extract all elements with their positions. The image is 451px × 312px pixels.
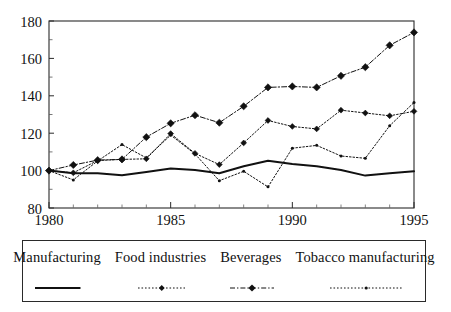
- series-beverages: [45, 29, 417, 174]
- data-point-marker: [70, 161, 77, 168]
- x-axis-ticks: [49, 202, 414, 208]
- dotted-dot-sample: [330, 281, 402, 295]
- data-point-marker: [169, 134, 172, 137]
- data-point-marker: [315, 144, 318, 147]
- chart-svg: 80100120140160180 1980198519901995: [0, 0, 451, 232]
- x-tick-label: 1990: [278, 212, 307, 228]
- y-tick-label: 120: [20, 126, 42, 142]
- y-tick-label: 160: [20, 51, 42, 67]
- series-manufacturing: [49, 161, 414, 176]
- legend-item-tobacco-manufacturing: Tobacco manufacturing: [295, 249, 434, 266]
- data-point-marker: [291, 147, 294, 150]
- y-tick-label: 100: [20, 163, 42, 179]
- data-point-marker: [313, 84, 320, 91]
- y-axis-tick-labels: 80100120140160180: [20, 14, 42, 217]
- data-point-marker: [340, 155, 343, 158]
- data-point-marker: [413, 101, 416, 104]
- data-point-marker: [218, 179, 221, 182]
- data-point-marker: [387, 113, 393, 119]
- data-point-marker: [191, 112, 198, 119]
- data-point-marker: [242, 170, 245, 173]
- legend-item-beverages: Beverages: [220, 249, 281, 266]
- x-tick-label: 1985: [156, 212, 185, 228]
- legend-label-row: Manufacturing Food industries Beverages …: [23, 249, 425, 266]
- legend-item-food-industries: Food industries: [115, 249, 206, 266]
- y-tick-label: 180: [20, 14, 42, 30]
- data-point-marker: [289, 83, 296, 90]
- legend-item-manufacturing: Manufacturing: [13, 249, 100, 266]
- x-tick-label: 1980: [35, 212, 64, 228]
- data-point-marker: [167, 120, 174, 127]
- data-point-marker: [364, 157, 367, 160]
- data-point-marker: [121, 143, 124, 146]
- x-tick-label: 1995: [400, 212, 429, 228]
- data-point-marker: [289, 124, 295, 130]
- data-point-marker: [267, 185, 270, 188]
- data-point-marker: [194, 152, 197, 155]
- line-chart-plot: 80100120140160180 1980198519901995: [0, 0, 451, 232]
- dotted-diamond-sample: [138, 281, 185, 295]
- dashdot-diamond-sample: [230, 281, 274, 295]
- y-tick-label: 140: [20, 88, 42, 104]
- data-series-group: [45, 29, 417, 189]
- solid-line-sample: [35, 281, 80, 295]
- data-point-marker: [410, 29, 417, 36]
- chart-legend: Manufacturing Food industries Beverages …: [22, 240, 426, 302]
- data-point-marker: [145, 156, 148, 159]
- data-point-marker: [411, 108, 417, 114]
- data-point-marker: [70, 170, 76, 176]
- data-point-marker: [216, 119, 223, 126]
- data-point-marker: [48, 169, 51, 172]
- data-point-marker: [362, 110, 368, 116]
- chart-figure: 80100120140160180 1980198519901995 Manuf…: [0, 0, 451, 312]
- legend-sample-row: [23, 281, 425, 295]
- data-point-marker: [96, 159, 99, 162]
- series-food-industries: [46, 107, 417, 175]
- data-point-marker: [72, 178, 75, 181]
- x-axis-tick-labels: 1980198519901995: [35, 212, 429, 228]
- data-point-marker: [337, 72, 344, 79]
- y-axis-ticks: [49, 21, 54, 208]
- data-point-marker: [388, 124, 391, 127]
